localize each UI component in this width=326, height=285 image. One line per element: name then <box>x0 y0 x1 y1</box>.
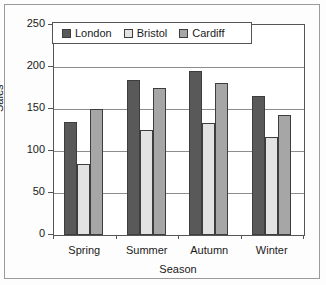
y-tick-label-150: 150 <box>11 102 45 113</box>
y-tick-label-100: 100 <box>11 144 45 155</box>
chart-figure: Sales 050100150200250SpringSummerAutumnW… <box>0 0 326 285</box>
bar-summer-bristol <box>140 130 153 235</box>
x-tick-label-autumn: Autumn <box>178 244 241 256</box>
legend-entry-cardiff[interactable]: Cardiff <box>179 28 224 39</box>
bar-spring-cardiff <box>90 109 103 235</box>
legend-label-bristol: Bristol <box>137 28 168 39</box>
plot-area <box>53 24 305 236</box>
bar-summer-cardiff <box>153 88 166 235</box>
y-tick-label-50: 50 <box>11 186 45 197</box>
bar-winter-bristol <box>265 137 278 235</box>
y-tick-label-0: 0 <box>11 228 45 239</box>
gridline-y-200 <box>54 67 304 68</box>
x-tick-label-winter: Winter <box>241 244 304 256</box>
bar-winter-london <box>252 96 265 235</box>
legend-swatch-icon-bristol <box>124 29 133 38</box>
chart-legend: LondonBristolCardiff <box>52 22 252 44</box>
legend-label-london: London <box>75 28 112 39</box>
bar-summer-london <box>127 80 140 235</box>
bar-spring-london <box>64 122 77 235</box>
legend-label-cardiff: Cardiff <box>192 28 224 39</box>
legend-swatch-icon-london <box>62 29 71 38</box>
legend-swatch-icon-cardiff <box>179 29 188 38</box>
y-tick-label-250: 250 <box>11 18 45 29</box>
bar-spring-bristol <box>77 164 90 235</box>
legend-entry-london[interactable]: London <box>62 28 112 39</box>
x-axis-title: Season <box>53 263 303 275</box>
legend-entry-bristol[interactable]: Bristol <box>124 28 168 39</box>
y-tick-label-200: 200 <box>11 60 45 71</box>
bar-autumn-bristol <box>202 123 215 235</box>
bar-autumn-cardiff <box>215 83 228 235</box>
bar-winter-cardiff <box>278 115 291 235</box>
x-tick-label-spring: Spring <box>53 244 116 256</box>
bar-autumn-london <box>189 71 202 235</box>
x-tick-label-summer: Summer <box>116 244 179 256</box>
